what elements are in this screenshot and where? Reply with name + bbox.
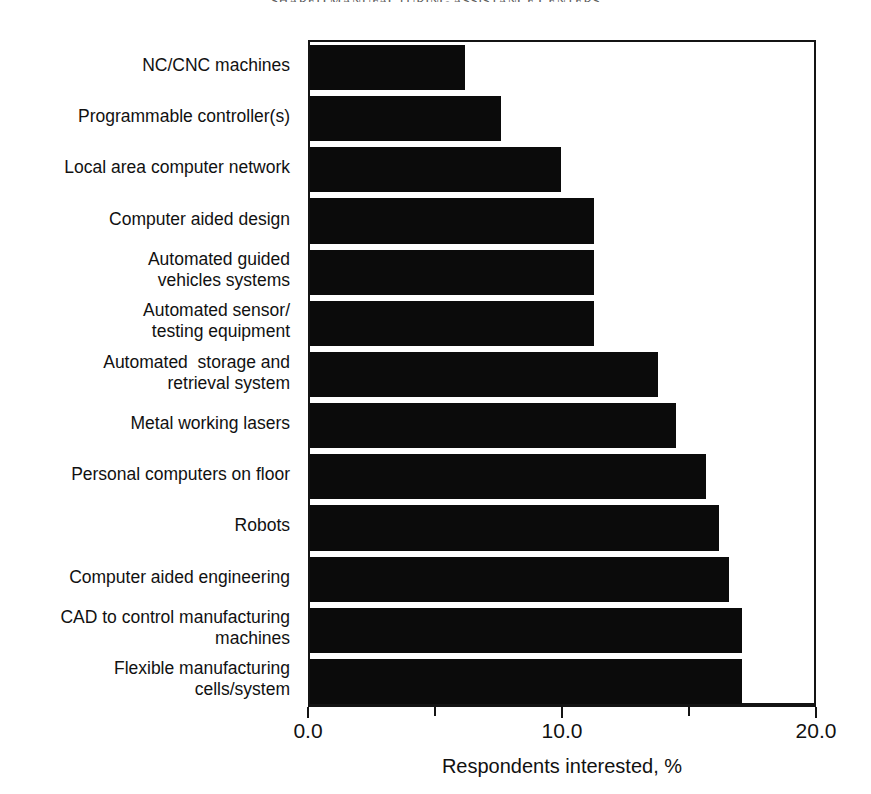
x-tick-minor [688, 707, 690, 716]
bar-row [310, 656, 814, 707]
category-label: NC/CNC machines [0, 55, 300, 76]
bar [310, 352, 658, 397]
category-label: Personal computers on floor [0, 464, 300, 485]
bar-row [310, 298, 814, 349]
bar-chart-figure: NC/CNC machinesProgrammable controller(s… [0, 0, 871, 794]
bar [310, 45, 465, 90]
category-label: Programmable controller(s) [0, 106, 300, 127]
category-label: Automated sensor/ testing equipment [0, 300, 300, 342]
category-label: CAD to control manufacturing machines [0, 607, 300, 649]
x-tick-major [561, 707, 563, 718]
bar-row [310, 144, 814, 195]
bar [310, 454, 706, 499]
x-tick-label: 10.0 [517, 719, 607, 743]
bar-row [310, 195, 814, 246]
bar-row [310, 93, 814, 144]
bar [310, 147, 561, 192]
x-tick-major [307, 707, 309, 718]
category-axis-labels: NC/CNC machinesProgrammable controller(s… [0, 40, 300, 705]
category-label: Metal working lasers [0, 413, 300, 434]
bar [310, 96, 501, 141]
bar [310, 659, 742, 704]
x-axis-title: Respondents interested, % [248, 755, 871, 778]
category-label: Computer aided design [0, 209, 300, 230]
category-label: Automated storage and retrieval system [0, 352, 300, 394]
bar-row [310, 42, 814, 93]
bar [310, 198, 594, 243]
x-tick-label: 0.0 [263, 719, 353, 743]
category-label: Local area computer network [0, 157, 300, 178]
bar [310, 301, 594, 346]
plot-area [308, 40, 816, 705]
category-label: Robots [0, 515, 300, 536]
bar [310, 250, 594, 295]
bar [310, 505, 719, 550]
bar-row [310, 400, 814, 451]
x-axis: 0.010.020.0 Respondents interested, % [308, 705, 816, 794]
bar [310, 403, 676, 448]
bar-row [310, 502, 814, 553]
category-label: Automated guided vehicles systems [0, 249, 300, 291]
x-tick-minor [434, 707, 436, 716]
bar-row [310, 349, 814, 400]
bar [310, 608, 742, 653]
x-tick-label: 20.0 [771, 719, 861, 743]
category-label: Flexible manufacturing cells/system [0, 658, 300, 700]
x-tick-major [815, 707, 817, 718]
bar-series [310, 42, 814, 703]
bar-row [310, 605, 814, 656]
bar-row [310, 451, 814, 502]
bar-row [310, 554, 814, 605]
bar-row [310, 247, 814, 298]
category-label: Computer aided engineering [0, 567, 300, 588]
bar [310, 557, 729, 602]
